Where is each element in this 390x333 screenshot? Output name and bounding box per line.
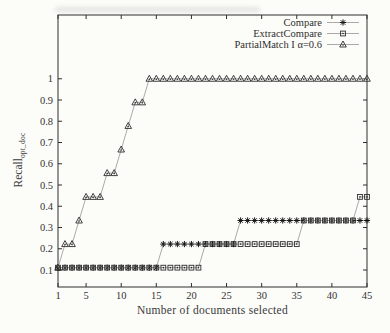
x-tick-label: 5 <box>83 290 88 301</box>
x-tick-label: 35 <box>292 290 303 301</box>
y-tick-label: 0.4 <box>40 201 54 212</box>
legend-sample-extractcompare-square-icon <box>327 31 359 36</box>
x-tick-label: 30 <box>256 290 267 301</box>
legend-label-partialmatch: PartialMatch I α=0.6 <box>234 39 322 50</box>
legend-row-compare: Compare <box>234 17 322 28</box>
x-tick-label: 1 <box>55 290 60 301</box>
y-tick-label: 0.3 <box>40 222 53 233</box>
y-tick-label: 0.2 <box>40 243 53 254</box>
x-tick-label: 40 <box>327 290 338 301</box>
legend-label-extractcompare: ExtractCompare <box>253 28 322 39</box>
y-axis-label: Recallopt_doc <box>12 85 28 235</box>
x-tick-label: 10 <box>116 290 127 301</box>
legend-sample-partialmatch-i-0-6-triangle-icon <box>327 41 359 47</box>
y-tick-label: 0.8 <box>40 116 53 127</box>
y-tick-label: 0.1 <box>40 265 53 276</box>
y-tick-label: 1 <box>48 73 53 84</box>
tick-labels: 1510152025303540450.10.20.30.40.50.60.70… <box>40 73 372 300</box>
y-axis-label-subscript: opt_doc <box>18 133 27 159</box>
recall-chart-figure: 1510152025303540450.10.20.30.40.50.60.70… <box>0 0 390 333</box>
x-axis-label: Number of documents selected <box>58 304 367 316</box>
legend: Compare ExtractCompare PartialMatch I α=… <box>234 17 322 50</box>
chart-canvas: 1510152025303540450.10.20.30.40.50.60.70… <box>0 0 390 333</box>
x-tick-label: 25 <box>221 290 232 301</box>
y-tick-label: 0.7 <box>40 137 53 148</box>
x-tick-label: 15 <box>151 290 162 301</box>
series-partialmatch-i-0-6 <box>55 75 371 270</box>
y-tick-label: 0.6 <box>40 158 53 169</box>
legend-row-extractcompare: ExtractCompare <box>234 28 322 39</box>
legend-row-partialmatch: PartialMatch I α=0.6 <box>234 39 322 50</box>
y-tick-label: 0.9 <box>40 95 53 106</box>
y-tick-label: 0.5 <box>40 180 53 191</box>
x-tick-label: 45 <box>362 290 373 301</box>
series-extractcompare <box>56 195 370 271</box>
legend-sample-compare-asterisk-icon <box>327 19 359 25</box>
y-axis-label-main: Recall <box>12 158 24 187</box>
legend-label-compare: Compare <box>284 17 323 28</box>
x-tick-label: 20 <box>186 290 197 301</box>
